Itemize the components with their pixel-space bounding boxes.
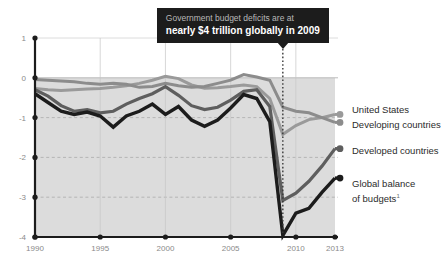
legend-label-developing-countries: Developing countries [352,119,441,131]
legend-label-developed-countries: Developed countries [352,145,439,157]
legend-label-united-states: United States [352,104,409,116]
callout-line-2: nearly $4 trillion globally in 2009 [166,24,320,37]
legend-label-global-balance-line2: of budgets1 [352,190,400,205]
x-tick-2010 [293,234,298,239]
y-tick--3 [32,195,37,200]
callout-line-1: Government budget deficits are at [166,13,320,24]
y-tick-0 [32,75,37,80]
y-tick-label--2: -2 [19,153,27,162]
y-tick--2 [32,155,37,160]
y-tick--1 [32,115,37,120]
endpoint-dot-global-balance-of-budgets [337,175,344,182]
x-tick-label-1995: 1995 [91,244,109,253]
y-tick-label--4: -4 [19,233,27,242]
x-tick-label-2000: 2000 [157,244,175,253]
x-tick-label-2005: 2005 [222,244,240,253]
x-tick-1995 [98,234,103,239]
y-tick-labels: 10-1-2-3-4 [19,34,27,242]
endpoint-dot-united-states [337,111,344,118]
callout-box: Government budget deficits are at nearly… [157,8,329,43]
x-tick-2000 [163,234,168,239]
y-tick-label-0: 0 [22,74,27,83]
x-tick-2013 [332,234,337,239]
y-tick-label--1: -1 [19,114,27,123]
y-tick-1 [32,35,37,40]
x-tick-label-1990: 1990 [26,244,44,253]
y-tick-label--3: -3 [19,193,27,202]
x-tick-1990 [32,234,37,239]
x-tick-label-2010: 2010 [287,244,305,253]
footnote-marker: 1 [396,193,399,199]
legend-global-balance-text2: of budgets [352,193,396,204]
x-tick-label-2013: 2013 [326,244,344,253]
endpoint-dot-developing-countries [337,119,344,126]
x-tick-2005 [228,234,233,239]
legend-label-global-balance-line1: Global balance [352,178,415,189]
endpoint-dot-developed-countries [337,145,344,152]
y-tick-label-1: 1 [22,34,27,43]
series-endpoint-dots [335,111,343,181]
legend-label-global-balance: Global balance [352,178,415,190]
chart-root: 10-1-2-3-4 199019952000200520102013 Gove… [0,0,448,273]
callout-tail-icon [277,42,289,49]
x-tick-labels: 199019952000200520102013 [26,244,344,253]
